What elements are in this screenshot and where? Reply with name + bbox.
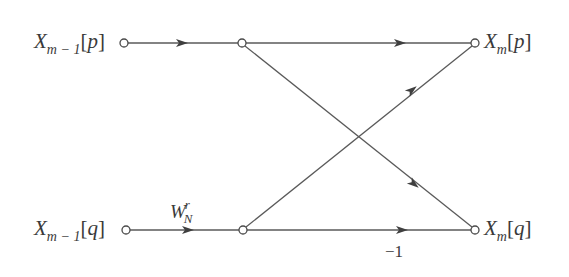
twiddle-superscript: r xyxy=(185,198,190,211)
label-bracket-close: ] xyxy=(524,29,531,53)
label-output-q: Xm[q] xyxy=(484,218,531,244)
label-index: p xyxy=(87,29,98,53)
node-output-p xyxy=(471,39,479,47)
label-subscript: m − 1 xyxy=(47,42,81,57)
label-subscript: m − 1 xyxy=(47,229,81,244)
label-bracket-close: ] xyxy=(98,216,105,240)
label-index: q xyxy=(87,216,98,240)
label-subscript: m xyxy=(497,229,507,244)
label-subscript: m xyxy=(497,42,507,57)
arrowheads xyxy=(176,39,421,234)
node-mid-p xyxy=(238,39,246,47)
label-bracket-close: ] xyxy=(98,29,105,53)
label-var: X xyxy=(34,216,47,240)
node-input-q xyxy=(122,226,130,234)
node-output-q xyxy=(471,226,479,234)
label-twiddle-factor: WrN xyxy=(170,202,196,221)
label-input-p: Xm − 1[p] xyxy=(34,31,105,57)
twiddle-subscript: N xyxy=(184,212,193,225)
label-input-q: Xm − 1[q] xyxy=(34,218,105,244)
label-var: X xyxy=(484,29,497,53)
label-bracket-close: ] xyxy=(524,216,531,240)
label-index: p xyxy=(514,29,525,53)
node-mid-q xyxy=(239,226,247,234)
label-index: q xyxy=(514,216,525,240)
label-bracket-open: [ xyxy=(507,29,514,53)
node-input-p xyxy=(120,39,128,47)
label-var: X xyxy=(34,29,47,53)
label-bracket-open: [ xyxy=(507,216,514,240)
label-output-p: Xm[p] xyxy=(484,31,531,57)
label-var: X xyxy=(484,216,497,240)
label-minus-one: −1 xyxy=(385,243,403,260)
